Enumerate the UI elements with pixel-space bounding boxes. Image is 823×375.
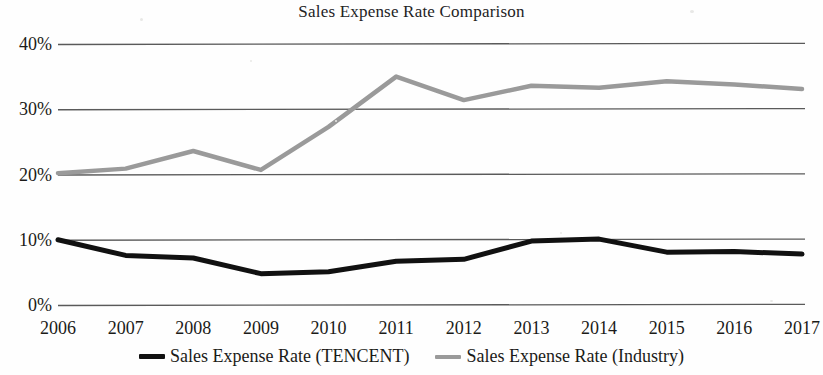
chart-legend: Sales Expense Rate (TENCENT)Sales Expens… [0,346,823,367]
gridline [58,43,805,44]
legend-line-swatch [139,354,165,359]
sales-expense-rate-chart: Sales Expense Rate Comparison 0%10%20%30… [0,0,823,375]
series-line [58,239,802,274]
legend-label: Sales Expense Rate (TENCENT) [170,346,409,367]
legend-item[interactable]: Sales Expense Rate (TENCENT) [139,346,409,367]
legend-item[interactable]: Sales Expense Rate (Industry) [435,346,683,367]
legend-line-swatch [435,355,461,359]
gridline [58,109,805,110]
gridline [58,239,805,240]
gridline [58,174,805,175]
series-line [58,77,802,174]
gridline [58,304,805,305]
legend-label: Sales Expense Rate (Industry) [466,346,683,367]
plot-area [0,0,823,375]
